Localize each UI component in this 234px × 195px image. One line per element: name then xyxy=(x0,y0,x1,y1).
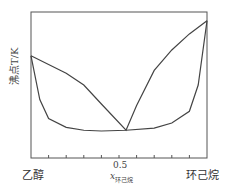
left-component-label: 乙醇 xyxy=(22,166,44,182)
x-tick-label-0-5: 0.5 xyxy=(113,160,127,170)
plot-frame xyxy=(31,12,207,158)
y-axis-label: 沸点T/K xyxy=(6,47,21,85)
x-axis-label: x环己烷 xyxy=(110,171,133,184)
liquid-curve xyxy=(31,21,207,131)
x-axis-label-sub: 环己烷 xyxy=(115,176,133,183)
right-component-label: 环己烷 xyxy=(186,166,219,182)
vapor-curve xyxy=(31,21,207,130)
